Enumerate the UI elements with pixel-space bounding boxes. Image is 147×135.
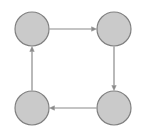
graph-node[interactable] xyxy=(15,91,49,125)
graph-node-circle[interactable] xyxy=(15,12,49,46)
graph-node[interactable] xyxy=(97,12,131,46)
graph-canvas: Directed cycle graph with four nodes xyxy=(0,0,147,135)
graph-node-circle[interactable] xyxy=(97,12,131,46)
graph-node[interactable] xyxy=(97,91,131,125)
graph-figure: Directed cycle graph with four nodes xyxy=(0,0,147,135)
graph-node-circle[interactable] xyxy=(15,91,49,125)
graph-node-circle[interactable] xyxy=(97,91,131,125)
graph-node[interactable] xyxy=(15,12,49,46)
